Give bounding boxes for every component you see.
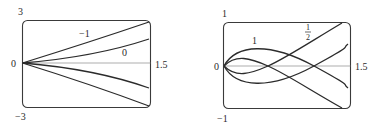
- right-annotation-half: 1 2: [305, 23, 311, 42]
- left-annotation-minus1: −1: [79, 28, 90, 39]
- left-curve-2: [23, 63, 150, 106]
- left-y-bottom-label: −3: [15, 111, 26, 122]
- figure: 3 −3 0 1.5 −1 0 1 −1 0 1.5 1 1 2: [0, 0, 376, 132]
- right-y-bottom-label: −1: [217, 113, 228, 124]
- fraction-denominator: 2: [306, 33, 310, 42]
- fraction-numerator: 1: [306, 23, 310, 32]
- left-x-right-label: 1.5: [155, 59, 168, 70]
- right-origin-label: 0: [214, 61, 219, 72]
- left-annotation-0: 0: [122, 47, 127, 58]
- right-curve-1-lower: [224, 44, 348, 83]
- left-y-top-label: 3: [18, 6, 23, 17]
- left-chart: 3 −3 0 1.5 −1 0: [11, 6, 168, 122]
- right-y-top-label: 1: [222, 8, 227, 19]
- right-chart: 1 −1 0 1.5 1 1 2: [214, 8, 368, 124]
- right-plot-frame: [224, 23, 351, 109]
- left-origin-label: 0: [11, 58, 16, 69]
- right-annotation-1: 1: [252, 35, 257, 46]
- right-x-right-label: 1.5: [355, 61, 368, 72]
- left-curve-1: [23, 63, 150, 88]
- right-curve-1-upper: [224, 49, 348, 88]
